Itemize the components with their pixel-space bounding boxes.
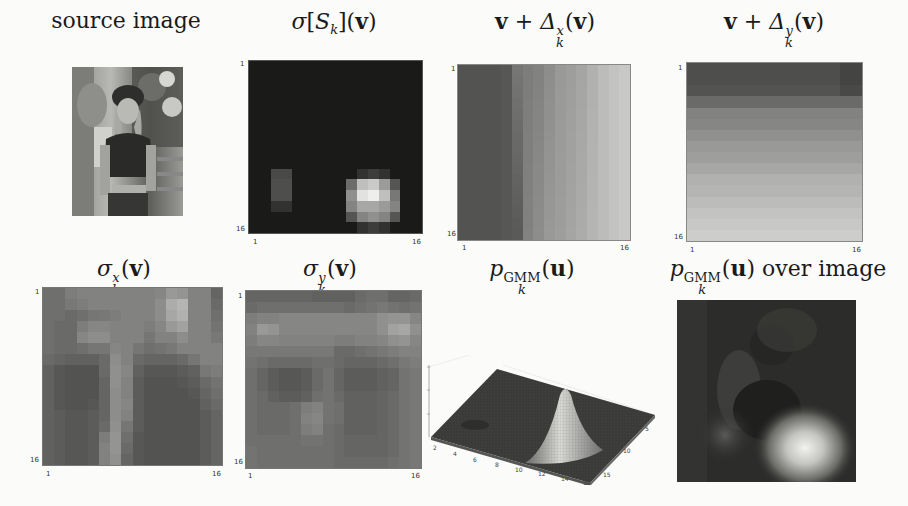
heatmap-cell <box>377 424 388 435</box>
heatmap-cell <box>54 454 65 465</box>
heatmap-cell <box>785 163 796 174</box>
heatmap-cell <box>490 196 501 207</box>
heatmap-cell <box>698 208 709 219</box>
heatmap-cell <box>480 153 491 164</box>
heatmap-cell <box>566 142 577 153</box>
heatmap-cell <box>533 109 544 120</box>
heatmap-cell <box>357 126 368 137</box>
heatmap-cell <box>292 72 303 83</box>
heatmap-cell <box>501 207 512 218</box>
heatmap-cell <box>188 299 199 310</box>
heatmap-cell <box>807 230 818 241</box>
heatmap-cell <box>144 443 155 454</box>
heatmap-cell <box>88 288 99 299</box>
heatmap-cell <box>523 131 534 142</box>
heatmap-cell <box>609 109 620 120</box>
heatmap-cell <box>303 212 314 223</box>
heatmap-cell <box>121 421 132 432</box>
heatmap-cell <box>619 120 630 131</box>
heatmap-cell <box>598 207 609 218</box>
heatmap-cell <box>840 208 851 219</box>
heatmap-cell <box>279 357 290 368</box>
heatmap-cell <box>346 72 357 83</box>
heatmap-cell <box>312 391 323 402</box>
heatmap-cell <box>566 153 577 164</box>
small-bump <box>461 420 489 430</box>
heatmap-cell <box>133 332 144 343</box>
heatmap-grid <box>458 65 630 240</box>
heatmap-cell <box>544 163 555 174</box>
heatmap-cell <box>829 174 840 185</box>
heatmap-cell <box>829 96 840 107</box>
heatmap-cell <box>177 288 188 299</box>
heatmap-cell <box>357 115 368 126</box>
y-tick-top: 1 <box>451 65 455 73</box>
heatmap-cell <box>110 299 121 310</box>
heatmap-cell <box>818 141 829 152</box>
heatmap-cell <box>764 197 775 208</box>
heatmap-cell <box>598 76 609 87</box>
heatmap-cell <box>410 424 421 435</box>
heatmap-cell <box>512 65 523 76</box>
heatmap-cell <box>388 457 399 468</box>
heatmap-cell <box>742 108 753 119</box>
heatmap-cell <box>346 61 357 72</box>
heatmap-cell <box>166 365 177 376</box>
heatmap-cell <box>110 399 121 410</box>
heatmap-cell <box>523 87 534 98</box>
heatmap-cell <box>829 63 840 74</box>
heatmap-cell <box>480 109 491 120</box>
heatmap-cell <box>368 179 379 190</box>
heatmap-cell <box>188 399 199 410</box>
heatmap-cell <box>555 98 566 109</box>
x-tick-left: 1 <box>690 246 694 254</box>
heatmap-cell <box>512 120 523 131</box>
heatmap-cell <box>523 120 534 131</box>
heatmap-cell <box>323 313 334 324</box>
heatmap-cell <box>292 104 303 115</box>
y-tick-bottom: 16 <box>674 233 683 241</box>
heatmap-cell <box>211 343 222 354</box>
heatmap-cell <box>292 61 303 72</box>
heatmap-cell <box>88 421 99 432</box>
heatmap-cell <box>77 432 88 443</box>
heatmap-cell <box>400 201 411 212</box>
heatmap-cell <box>281 115 292 126</box>
heatmap-cell <box>829 152 840 163</box>
heatmap-cell <box>458 207 469 218</box>
heatmap-cell <box>268 402 279 413</box>
heatmap-cell <box>753 197 764 208</box>
heatmap-cell <box>88 310 99 321</box>
heatmap-cell <box>368 93 379 104</box>
heatmap-cell <box>88 332 99 343</box>
heatmap-cell <box>566 207 577 218</box>
heatmap-cell <box>334 313 345 324</box>
heatmap-cell <box>325 190 336 201</box>
heatmap-cell <box>355 368 366 379</box>
heatmap-cell <box>279 324 290 335</box>
heatmap-cell <box>355 357 366 368</box>
heatmap-cell <box>458 153 469 164</box>
heatmap-cell <box>458 142 469 153</box>
heatmap-cell <box>43 410 54 421</box>
heatmap-cell <box>818 74 829 85</box>
heatmap-cell <box>796 174 807 185</box>
heatmap-cell <box>720 108 731 119</box>
heatmap-cell <box>301 424 312 435</box>
heatmap-cell <box>110 332 121 343</box>
heatmap-cell <box>281 104 292 115</box>
heatmap-cell <box>155 421 166 432</box>
heatmap-cell <box>357 147 368 158</box>
heatmap-cell <box>687 108 698 119</box>
heatmap-cell <box>458 218 469 229</box>
heatmap-cell <box>246 402 257 413</box>
heatmap-cell <box>271 136 282 147</box>
heatmap-cell <box>246 446 257 457</box>
heatmap-cell <box>687 130 698 141</box>
heatmap-cell <box>292 179 303 190</box>
heatmap-cell <box>257 324 268 335</box>
heatmap-cell <box>377 446 388 457</box>
heatmap-cell <box>257 457 268 468</box>
heatmap-cell <box>469 142 480 153</box>
heatmap-cell <box>533 131 544 142</box>
